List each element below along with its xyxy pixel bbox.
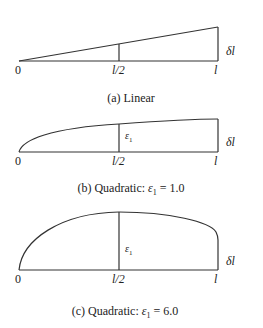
panel-c-tick-0: 0 — [15, 273, 21, 285]
panel-a-caption: (a) Linear — [107, 92, 155, 104]
panel-b-mid-label: ε1 — [125, 130, 132, 144]
panel-a-delta-label: δl — [226, 45, 235, 57]
panel-c-shape — [19, 212, 218, 270]
panel-c-caption: (c) Quadratic: ε1 = 6.0 — [72, 305, 178, 322]
diagram-canvas — [0, 0, 263, 328]
panel-a-tick-end: l — [214, 64, 217, 76]
panel-a-tick-0: 0 — [15, 64, 21, 76]
panel-c-tick-end: l — [214, 273, 217, 285]
panel-a-tick-mid: l/2 — [112, 64, 125, 76]
panel-b-tick-0: 0 — [15, 155, 21, 167]
panel-c-mid-label: ε1 — [125, 243, 132, 257]
panel-c-delta-label: δl — [226, 255, 235, 267]
panel-b-shape — [19, 119, 218, 152]
panel-a-shape — [19, 27, 218, 61]
panel-b-tick-end: l — [214, 155, 217, 167]
panel-b-delta-label: δl — [226, 136, 235, 148]
panel-b-caption: (b) Quadratic: ε1 = 1.0 — [77, 182, 184, 199]
panel-b-tick-mid: l/2 — [112, 155, 125, 167]
panel-c-tick-mid: l/2 — [112, 273, 125, 285]
